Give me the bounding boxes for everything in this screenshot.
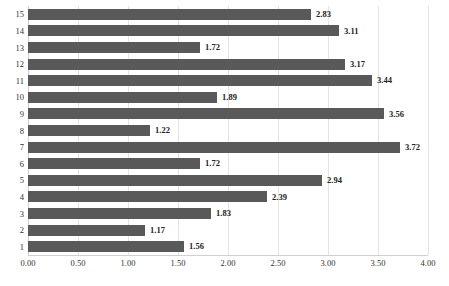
bar-value-label: 1.22: [155, 126, 170, 135]
bar-14[interactable]: [28, 25, 339, 36]
bar-value-label: 1.17: [150, 226, 165, 235]
bar-row[interactable]: 1.83: [28, 205, 428, 222]
bar-row[interactable]: 3.11: [28, 23, 428, 40]
x-tick-label-3.00: 3.00: [321, 259, 336, 268]
x-tick-label-2.00: 2.00: [221, 259, 236, 268]
x-tick-label-0.50: 0.50: [71, 259, 86, 268]
x-tick-label-1.00: 1.00: [121, 259, 136, 268]
bar-row[interactable]: 1.72: [28, 39, 428, 56]
bar-2[interactable]: [28, 225, 145, 236]
y-tick-label-5: 5: [0, 176, 24, 185]
bar-value-label: 3.11: [344, 27, 358, 36]
bar-value-label: 1.56: [189, 242, 204, 251]
x-tick-label-4.00: 4.00: [421, 259, 436, 268]
bar-value-label: 1.83: [216, 209, 231, 218]
y-tick-label-15: 15: [0, 10, 24, 19]
bar-10[interactable]: [28, 92, 217, 103]
plot-area: 2.833.111.723.173.441.893.561.223.721.72…: [28, 6, 428, 255]
bar-chart: 2.833.111.723.173.441.893.561.223.721.72…: [0, 0, 449, 286]
bar-4[interactable]: [28, 191, 267, 202]
bar-row[interactable]: 1.89: [28, 89, 428, 106]
bar-value-label: 2.94: [327, 176, 342, 185]
y-axis-tick-labels: 151413121110987654321: [0, 6, 24, 255]
bar-5[interactable]: [28, 175, 322, 186]
y-tick-label-14: 14: [0, 27, 24, 36]
bar-1[interactable]: [28, 241, 184, 252]
bar-value-label: 3.44: [377, 76, 392, 85]
bar-row[interactable]: 3.72: [28, 139, 428, 156]
y-tick-label-9: 9: [0, 110, 24, 119]
bar-3[interactable]: [28, 208, 211, 219]
bar-row[interactable]: 3.56: [28, 106, 428, 123]
bar-8[interactable]: [28, 125, 150, 136]
bar-row[interactable]: 3.17: [28, 56, 428, 73]
bar-15[interactable]: [28, 9, 311, 20]
bar-row[interactable]: 1.56: [28, 238, 428, 255]
bar-row[interactable]: 1.22: [28, 122, 428, 139]
bar-12[interactable]: [28, 59, 345, 70]
bar-row[interactable]: 1.72: [28, 155, 428, 172]
y-tick-label-8: 8: [0, 126, 24, 135]
x-tick-label-3.50: 3.50: [371, 259, 386, 268]
x-tick-label-0.00: 0.00: [21, 259, 36, 268]
bar-13[interactable]: [28, 42, 200, 53]
bar-7[interactable]: [28, 142, 400, 153]
x-axis-tick-labels: 0.000.501.001.502.002.503.003.504.00: [28, 259, 428, 275]
y-tick-label-2: 2: [0, 226, 24, 235]
y-tick-label-12: 12: [0, 60, 24, 69]
bar-value-label: 3.17: [350, 60, 365, 69]
y-tick-label-13: 13: [0, 43, 24, 52]
bar-value-label: 1.89: [222, 93, 237, 102]
x-axis-line: [28, 255, 428, 256]
bar-9[interactable]: [28, 108, 384, 119]
y-tick-label-4: 4: [0, 193, 24, 202]
bar-value-label: 1.72: [205, 159, 220, 168]
bar-value-label: 1.72: [205, 43, 220, 52]
bar-row[interactable]: 1.17: [28, 222, 428, 239]
y-tick-label-3: 3: [0, 209, 24, 218]
bar-value-label: 2.83: [316, 10, 331, 19]
bar-series: 2.833.111.723.173.441.893.561.223.721.72…: [28, 6, 428, 255]
x-tick-label-1.50: 1.50: [171, 259, 186, 268]
y-tick-label-6: 6: [0, 159, 24, 168]
y-tick-label-1: 1: [0, 242, 24, 251]
bar-row[interactable]: 2.94: [28, 172, 428, 189]
bar-6[interactable]: [28, 158, 200, 169]
x-tick-label-2.50: 2.50: [271, 259, 286, 268]
bar-row[interactable]: 2.39: [28, 189, 428, 206]
bar-value-label: 3.72: [405, 143, 420, 152]
bar-11[interactable]: [28, 75, 372, 86]
bar-row[interactable]: 3.44: [28, 72, 428, 89]
gridline-4.00: [428, 6, 429, 255]
bar-value-label: 3.56: [389, 110, 404, 119]
y-tick-label-7: 7: [0, 143, 24, 152]
y-tick-label-11: 11: [0, 76, 24, 85]
bar-value-label: 2.39: [272, 193, 287, 202]
bar-row[interactable]: 2.83: [28, 6, 428, 23]
y-tick-label-10: 10: [0, 93, 24, 102]
